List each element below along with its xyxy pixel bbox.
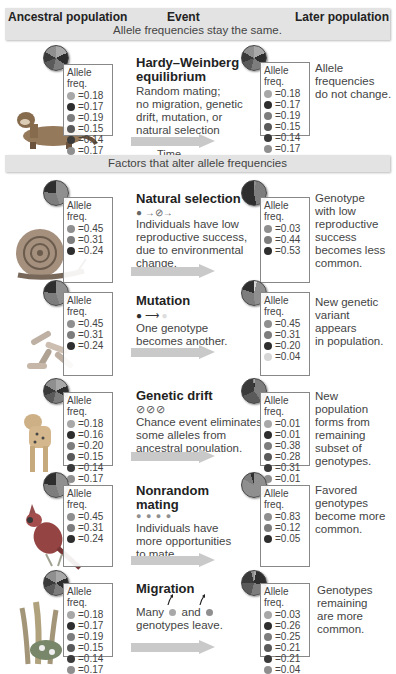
outcome-note: Allelefrequenciesdo not change. [315, 62, 391, 101]
allele-dot-icon [264, 145, 272, 153]
allele-box-header: Allele freq. [264, 395, 306, 417]
allele-value: 0.45 [84, 511, 103, 522]
outcome-note: Newpopulationforms fromremainingsubset o… [315, 390, 371, 468]
cheetah-icon [15, 410, 65, 475]
ancestral-allele-box: Allele freq. = 0.45 = 0.31 = 0.24 [63, 485, 113, 567]
allele-value: 0.19 [84, 631, 103, 642]
ancestral-allele-box: Allele freq. = 0.45 = 0.31 = 0.24 [63, 197, 113, 283]
allele-value: 0.16 [84, 429, 103, 440]
allele-dot-icon [67, 611, 75, 619]
allele-box-header: Allele freq. [67, 395, 109, 417]
allele-dot-icon [264, 112, 272, 120]
allele-dot-icon [67, 464, 75, 472]
allele-dot-icon [67, 535, 75, 543]
allele-dot-icon [264, 236, 272, 244]
allele-value: 0.18 [84, 609, 103, 620]
allele-value: 0.18 [84, 418, 103, 429]
allele-dot-icon [67, 442, 75, 450]
allele-value: 0.53 [281, 245, 300, 256]
allele-value: 0.31 [281, 329, 300, 340]
allele-value: 0.31 [84, 522, 103, 533]
allele-value: 0.17 [84, 473, 103, 484]
later-allele-box: Allele freq. = 0.03 = 0.26 = 0.25 = 0.21… [260, 583, 310, 657]
allele-value: 0.17 [84, 620, 103, 631]
allele-dot-icon [264, 247, 272, 255]
allele-value: 0.21 [281, 653, 300, 664]
mutation-symbol-icon: ● ⟶ ● [136, 310, 168, 321]
ancestral-allele-box: Allele freq. = 0.18 = 0.16 = 0.20 = 0.15… [63, 392, 113, 466]
ancestral-allele-box: Allele freq. = 0.45 = 0.31 = 0.24 [63, 292, 113, 376]
arrow-icon [131, 553, 216, 567]
column-header-event: Event [167, 10, 200, 24]
allele-value: 0.24 [84, 245, 103, 256]
allele-dot-icon [264, 442, 272, 450]
allele-value: 0.14 [84, 653, 103, 664]
time-arrow-icon [131, 134, 216, 148]
allele-value: 0.15 [281, 121, 300, 132]
allele-value: 0.01 [281, 429, 300, 440]
allele-value: 0.19 [84, 112, 103, 123]
outcome-note: Genotypewith lowreproductivesuccessbecom… [315, 192, 385, 270]
allele-value: 0.18 [84, 90, 103, 101]
allele-value: 0.26 [281, 620, 300, 631]
allele-dot-icon [206, 609, 213, 616]
allele-dot-icon [67, 644, 75, 652]
allele-dot-icon [67, 633, 75, 641]
allele-value: 0.15 [84, 451, 103, 462]
allele-value: 0.14 [281, 132, 300, 143]
allele-value: 0.31 [281, 462, 300, 473]
event-description: Individuals have lowreproductive success… [136, 218, 247, 270]
outcome-note: New geneticvariantappearsin population. [315, 296, 383, 348]
allele-value: 0.18 [281, 88, 300, 99]
allele-dot-icon [264, 633, 272, 641]
event-description: Random mating;no migration, geneticdrift… [136, 85, 243, 137]
allele-box-header: Allele freq. [264, 586, 306, 608]
allele-value: 0.15 [84, 642, 103, 653]
allele-dot-icon [67, 147, 75, 155]
allele-dot-icon [67, 125, 75, 133]
allele-dot-icon [264, 420, 272, 428]
allele-dot-icon [67, 331, 75, 339]
allele-value: 0.20 [281, 340, 300, 351]
arrow-icon [131, 449, 216, 463]
allele-value: 0.14 [84, 134, 103, 145]
allele-dot-icon [264, 644, 272, 652]
allele-value: 0.45 [281, 318, 300, 329]
allele-dot-icon [67, 622, 75, 630]
allele-dot-icon [67, 103, 75, 111]
allele-value: 0.14 [84, 462, 103, 473]
allele-box-header: Allele freq. [264, 200, 306, 222]
allele-value: 0.20 [84, 440, 103, 451]
event-title: Mutation [136, 294, 190, 308]
allele-dot-icon [67, 431, 75, 439]
allele-value: 0.83 [281, 511, 300, 522]
allele-value: 0.15 [84, 123, 103, 134]
allele-dot-icon [264, 353, 272, 361]
event-title: Natural selection [136, 192, 241, 206]
allele-box-header: Allele freq. [67, 200, 109, 222]
selection-symbol-icon: ● →⊘→ [136, 207, 173, 218]
arrow-icon [131, 264, 216, 278]
allele-dot-icon [264, 123, 272, 131]
event-description: Many and genotypes leave. [136, 606, 223, 632]
allele-value: 0.19 [281, 110, 300, 121]
allele-value: 0.45 [84, 318, 103, 329]
allele-dot-icon [264, 101, 272, 109]
later-allele-box: Allele freq. = 0.45 = 0.31 = 0.20 = 0.04 [260, 292, 310, 376]
allele-value: 0.31 [84, 234, 103, 245]
allele-value: 0.31 [84, 329, 103, 340]
column-header-ancestral: Ancestral population [8, 10, 127, 24]
outcome-note: Genotypesremainingare morecommon. [317, 584, 373, 636]
allele-value: 0.25 [281, 631, 300, 642]
outcome-note: Favoredgenotypesbecome morecommon. [315, 484, 385, 536]
later-allele-box: Allele freq. = 0.83 = 0.12 = 0.05 [260, 485, 310, 567]
allele-dot-icon [67, 236, 75, 244]
allele-value: 0.04 [281, 351, 300, 362]
allele-box-header: Allele freq. [264, 65, 306, 87]
allele-dot-icon [264, 464, 272, 472]
allele-dot-icon [67, 420, 75, 428]
allele-dot-icon [264, 622, 272, 630]
arrow-icon [131, 345, 216, 359]
drift-symbol-icon: ⊘⊘⊘ [136, 403, 166, 416]
later-allele-box: Allele freq. = 0.03 = 0.44 = 0.53 [260, 197, 310, 283]
